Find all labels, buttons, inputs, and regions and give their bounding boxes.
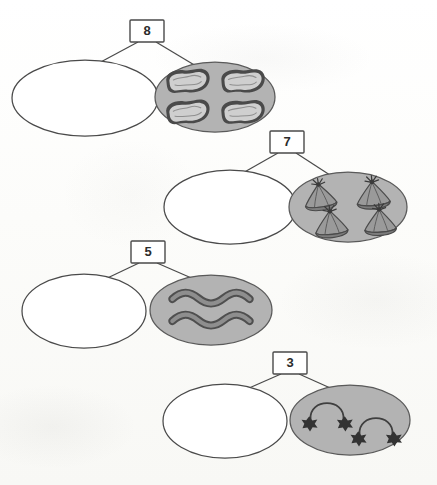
empty-part-outline[interactable] [163, 384, 287, 458]
shaded-part-group [155, 62, 275, 132]
shaded-part-group [289, 172, 407, 242]
number-bond-7: 7 [164, 131, 407, 244]
empty-part-outline[interactable] [22, 274, 146, 348]
connector-right [296, 153, 333, 177]
bond-total-box[interactable]: 3 [273, 352, 307, 374]
bond-total-box[interactable]: 5 [131, 241, 165, 263]
empty-part-outline[interactable] [164, 170, 296, 244]
shaded-part-group [150, 275, 272, 345]
total-value: 8 [143, 23, 150, 38]
number-bond-5: 5 [22, 241, 272, 348]
bond-total-box[interactable]: 7 [270, 131, 304, 153]
empty-part-ellipse[interactable] [12, 60, 158, 136]
total-value: 3 [286, 355, 293, 370]
empty-part-ellipse[interactable] [163, 384, 287, 458]
connector-right [156, 42, 196, 66]
bond-total-box[interactable]: 8 [130, 20, 164, 42]
total-value: 7 [283, 134, 290, 149]
shaded-part-outline [150, 275, 272, 345]
number-bond-worksheet: 8 7 [0, 0, 437, 485]
empty-part-outline[interactable] [12, 60, 158, 136]
empty-part-ellipse[interactable] [22, 274, 146, 348]
shaded-part-group [290, 385, 410, 455]
number-bond-8: 8 [12, 20, 275, 136]
total-value: 5 [144, 244, 151, 259]
empty-part-ellipse[interactable] [164, 170, 296, 244]
number-bond-3: 3 [163, 352, 410, 458]
